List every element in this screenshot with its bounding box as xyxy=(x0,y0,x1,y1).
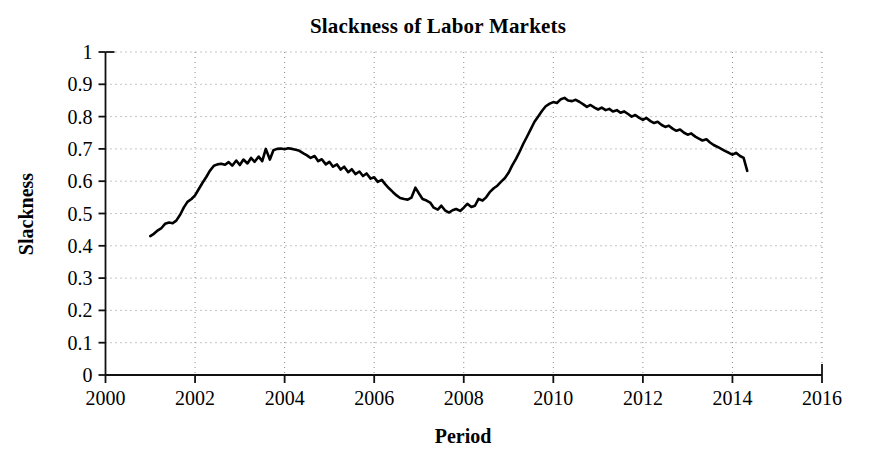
x-tick-label: 2004 xyxy=(265,387,305,409)
y-tick-label: 0.9 xyxy=(68,73,93,95)
y-tick-label: 0.5 xyxy=(68,203,93,225)
x-axis-title: Period xyxy=(435,425,492,447)
data-series-slackness xyxy=(150,98,747,236)
gridlines-vertical xyxy=(195,52,822,375)
y-tick-label: 0.6 xyxy=(68,170,93,192)
y-tick-label: 0.2 xyxy=(68,299,93,321)
x-tick-label: 2000 xyxy=(86,387,126,409)
y-tick-label: 0.3 xyxy=(68,267,93,289)
axis-lines xyxy=(106,52,823,375)
chart-figure: Slackness of Labor Markets 00.10.20.30.4… xyxy=(0,0,876,467)
x-axis-ticks xyxy=(106,375,823,383)
y-tick-label: 0.7 xyxy=(68,138,93,160)
x-tick-label: 2008 xyxy=(444,387,484,409)
x-tick-label: 2002 xyxy=(175,387,215,409)
series-line xyxy=(150,98,747,236)
y-axis-ticks xyxy=(99,52,106,375)
line-chart-plot: 00.10.20.30.40.50.60.70.80.91 2000200220… xyxy=(0,0,876,467)
y-axis-tick-labels: 00.10.20.30.40.50.60.70.80.91 xyxy=(68,41,93,386)
x-tick-label: 2010 xyxy=(533,387,573,409)
y-tick-label: 0.1 xyxy=(68,332,93,354)
y-tick-label: 1 xyxy=(83,41,93,63)
y-tick-label: 0.8 xyxy=(68,106,93,128)
x-tick-label: 2006 xyxy=(354,387,394,409)
y-tick-label: 0 xyxy=(83,364,93,386)
x-tick-label: 2012 xyxy=(623,387,663,409)
x-axis-tick-labels: 200020022004200620082010201220142016 xyxy=(86,387,843,409)
x-tick-label: 2014 xyxy=(712,387,752,409)
x-tick-label: 2016 xyxy=(802,387,842,409)
y-tick-label: 0.4 xyxy=(68,235,93,257)
y-axis-title: Slackness xyxy=(15,173,37,255)
